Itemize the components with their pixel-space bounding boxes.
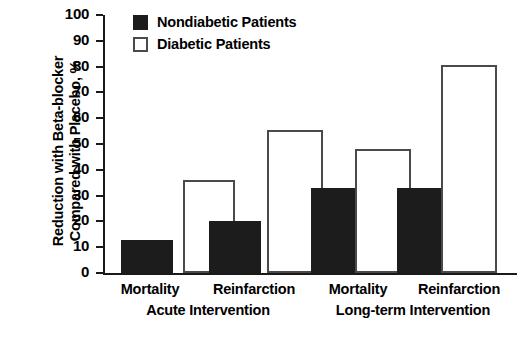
legend-entry-diabetic: Diabetic Patients [133,34,296,54]
y-tick-label-60: 60 [73,108,89,125]
y-tick-mark [96,14,103,16]
y-tick-label-50: 50 [73,134,89,151]
group-label-longterm-intervention: Long-term Intervention [312,302,514,318]
x-label-acute-mortality: Mortality [105,281,195,297]
x-label-longterm-reinfarction: Reinfarction [400,281,518,297]
y-tick-label-70: 70 [73,82,89,99]
y-tick-label-10: 10 [73,237,89,254]
y-tick-label-100: 100 [65,5,89,22]
y-tick-label-90: 90 [73,31,89,48]
filled-square-icon [133,15,148,30]
legend-entry-nondiabetic: Nondiabetic Patients [133,12,296,32]
y-axis-title-line-1: Reduction with Beta-blocker [50,17,67,285]
y-tick-mark [96,117,103,119]
legend-label-nondiabetic: Nondiabetic Patients [157,14,296,30]
y-tick-label-80: 80 [73,57,89,74]
y-tick-mark [96,220,103,222]
legend: Nondiabetic Patients Diabetic Patients [133,12,296,56]
y-tick-mark [96,195,103,197]
y-tick-label-40: 40 [73,160,89,177]
bar-acute-reinfarction-nondiabetic [209,221,261,273]
open-square-icon [133,37,148,52]
y-tick-mark [96,272,103,274]
bar-longterm-reinfarction-diabetic [441,65,497,273]
y-tick-mark [96,143,103,145]
y-tick-label-30: 30 [73,186,89,203]
y-tick-mark [96,40,103,42]
x-label-acute-reinfarction: Reinfarction [195,281,313,297]
y-tick-label-20: 20 [73,211,89,228]
y-tick-label-0: 0 [81,263,89,280]
y-tick-mark [96,66,103,68]
legend-label-diabetic: Diabetic Patients [157,36,270,52]
bar-chart-figure: Reduction with Beta-blocker Compared wit… [0,0,521,339]
figure-caption [8,329,513,339]
group-label-acute-intervention: Acute Intervention [110,302,306,318]
y-tick-mark [96,246,103,248]
y-tick-mark [96,169,103,171]
x-axis-line [103,273,517,275]
y-tick-mark [96,91,103,93]
bar-acute-mortality-nondiabetic [121,240,173,274]
x-label-longterm-mortality: Mortality [313,281,403,297]
